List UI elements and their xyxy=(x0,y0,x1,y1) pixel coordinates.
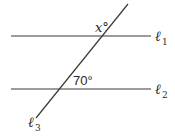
angle-70-label: 70° xyxy=(73,73,93,88)
diagram-canvas: x° 70° ℓ 1 ℓ 2 ℓ 3 xyxy=(0,0,175,137)
label-l3-symbol: ℓ xyxy=(28,114,34,130)
label-l1-symbol: ℓ xyxy=(155,28,161,44)
label-l2: ℓ 2 xyxy=(155,81,168,100)
label-l2-subscript: 2 xyxy=(162,90,168,100)
label-l3-subscript: 3 xyxy=(35,123,41,133)
angle-x-label: x° xyxy=(95,20,109,35)
label-l1-subscript: 1 xyxy=(162,37,168,47)
label-l2-symbol: ℓ xyxy=(155,81,161,97)
label-l1: ℓ 1 xyxy=(155,28,168,47)
line-l3-transversal xyxy=(36,4,128,118)
label-l3: ℓ 3 xyxy=(28,114,41,133)
